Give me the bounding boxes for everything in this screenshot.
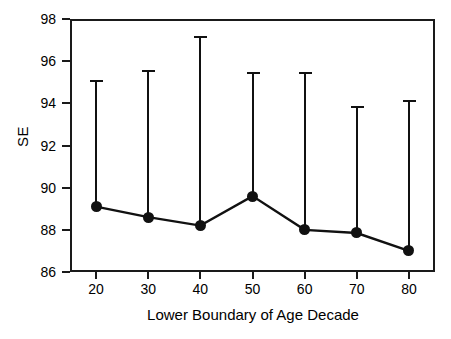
x-tick-label: 40: [180, 281, 220, 297]
x-tick-label: 70: [337, 281, 377, 297]
y-tick-mark: [62, 145, 70, 147]
y-axis-title: SE: [14, 107, 31, 167]
chart-figure: SE 86889092949698 20304050607080 Lower B…: [0, 0, 451, 339]
y-tick-mark: [62, 187, 70, 189]
x-tick-mark: [199, 271, 201, 279]
x-tick-label: 30: [128, 281, 168, 297]
x-tick-mark: [408, 271, 410, 279]
y-tick-mark: [62, 271, 70, 273]
y-tick-mark: [62, 60, 70, 62]
y-tick-mark: [62, 229, 70, 231]
y-tick-label: 86: [16, 265, 56, 279]
x-tick-label: 20: [76, 281, 116, 297]
x-tick-mark: [95, 271, 97, 279]
x-tick-mark: [252, 271, 254, 279]
y-tick-label: 98: [16, 12, 56, 26]
y-tick-label: 92: [16, 139, 56, 153]
x-tick-label: 60: [285, 281, 325, 297]
y-tick-label: 94: [16, 96, 56, 110]
x-axis-title: Lower Boundary of Age Decade: [70, 306, 436, 323]
y-tick-mark: [62, 18, 70, 20]
x-tick-label: 50: [233, 281, 273, 297]
plot-area: [70, 19, 435, 272]
y-tick-mark: [62, 102, 70, 104]
y-tick-label: 96: [16, 54, 56, 68]
x-tick-mark: [147, 271, 149, 279]
x-tick-label: 80: [389, 281, 429, 297]
y-tick-label: 90: [16, 181, 56, 195]
x-tick-mark: [356, 271, 358, 279]
x-tick-mark: [304, 271, 306, 279]
y-tick-label: 88: [16, 223, 56, 237]
